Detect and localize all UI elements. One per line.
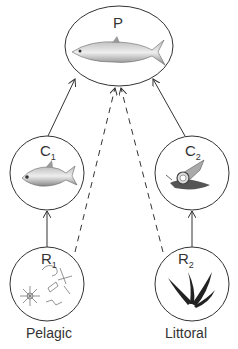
node-p-label: P xyxy=(113,14,123,31)
edge-c1-p xyxy=(48,79,75,136)
node-c1-label: C1 xyxy=(40,142,56,162)
node-c2-label: C2 xyxy=(185,142,201,162)
node-r1-label: R1 xyxy=(41,250,57,270)
edge-c2-p xyxy=(153,79,185,136)
habitat-label-pelagic: Pelagic xyxy=(26,325,72,341)
food-web-diagram xyxy=(0,0,238,349)
habitat-label-littoral: Littoral xyxy=(165,325,207,341)
node-r2-label: R2 xyxy=(178,250,194,270)
